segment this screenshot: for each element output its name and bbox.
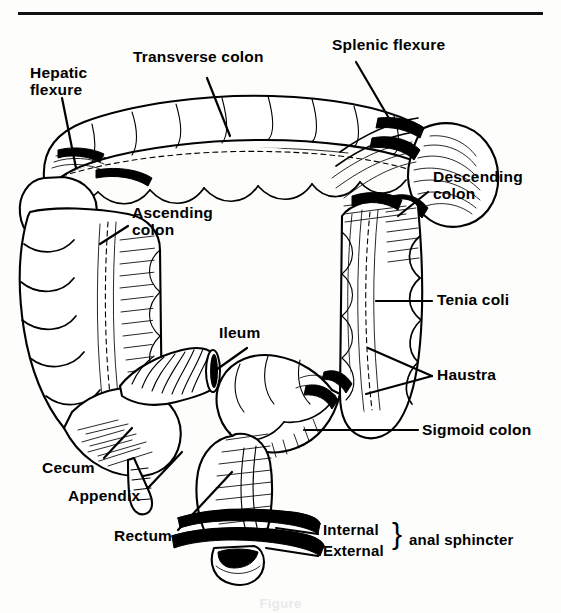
label-haustra: Haustra: [437, 366, 496, 383]
label-anal-sphincter-group: anal sphincter: [409, 531, 514, 548]
anal-sphincter-brace: }: [392, 519, 402, 549]
label-ascending-colon: Ascendingcolon: [132, 204, 213, 238]
label-internal-sphincter: Internal: [323, 521, 379, 538]
label-ileum: Ileum: [219, 324, 260, 341]
label-tenia-coli: Tenia coli: [437, 291, 509, 308]
label-rectum: Rectum: [114, 527, 172, 544]
label-hepatic-flexure: Hepaticflexure: [30, 64, 87, 98]
label-sigmoid-colon: Sigmoid colon: [422, 421, 531, 438]
anal-sphincter-shape: [172, 510, 324, 585]
label-cecum: Cecum: [42, 459, 95, 476]
label-splenic-flexure: Splenic flexure: [332, 36, 445, 53]
label-descending-colon: Descendingcolon: [433, 168, 523, 202]
figure-page: .o{fill:#fff;stroke:#000;stroke-width:2.…: [0, 0, 561, 613]
descending-colon-shape: [340, 193, 422, 439]
transverse-colon-shape: [44, 96, 452, 204]
figure-caption: Figure: [0, 596, 561, 611]
label-transverse-colon: Transverse colon: [133, 48, 264, 65]
label-external-sphincter: External: [323, 542, 384, 559]
label-appendix: Appendix: [68, 487, 140, 504]
